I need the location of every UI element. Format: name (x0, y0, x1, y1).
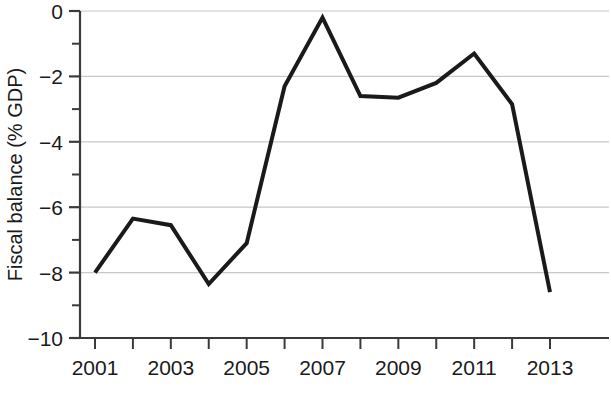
x-tick-label-2005: 2005 (223, 356, 270, 379)
x-tick-label-2009: 2009 (375, 356, 422, 379)
x-tick-label-2011: 2011 (452, 356, 497, 379)
y-axis-title: Fiscal balance (% GDP) (4, 68, 26, 281)
x-tick-label-2007: 2007 (299, 356, 346, 379)
y-tick-label--8: −8 (39, 262, 63, 285)
y-tick-label--4: −4 (39, 131, 63, 154)
y-tick-label--10: −10 (27, 327, 63, 350)
chart-canvas: 0−2−4−6−8−10 200120032005200720092011201… (0, 0, 611, 399)
y-tick-label--6: −6 (39, 196, 63, 219)
x-tick-label-2001: 2001 (72, 356, 119, 379)
y-tick-label--2: −2 (39, 65, 63, 88)
fiscal-balance-line-chart: 0−2−4−6−8−10 200120032005200720092011201… (0, 0, 611, 399)
x-tick-label-2013: 2013 (527, 356, 574, 379)
x-tick-label-2003: 2003 (147, 356, 194, 379)
y-tick-label-0: 0 (51, 0, 63, 23)
chart-background (0, 0, 611, 399)
